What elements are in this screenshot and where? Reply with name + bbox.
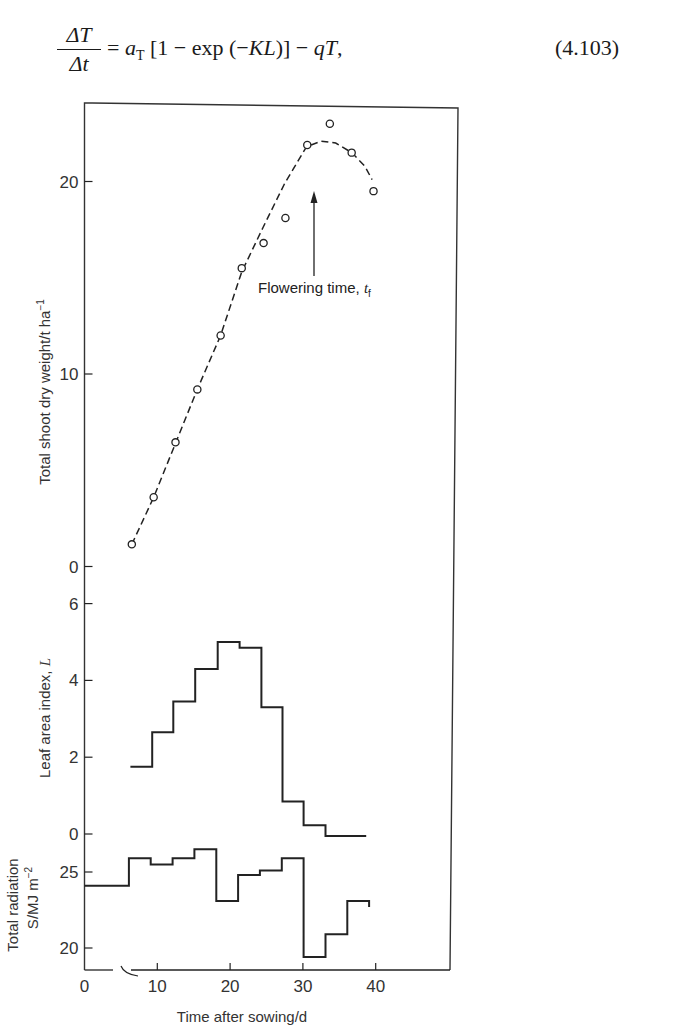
data-point-circle: [326, 120, 333, 127]
rad-y-axis-title-line1: Total radiation: [4, 858, 21, 951]
x-tick-label: 30: [293, 977, 312, 996]
lai-y-tick-label: 2: [69, 748, 78, 767]
lai-y-tick-label: 6: [69, 595, 78, 614]
weight-y-tick-label: 0: [69, 558, 78, 577]
axis-break-icon: [121, 966, 138, 976]
frame-border: [85, 103, 459, 970]
leaf-area-index-panel: 0246: [69, 595, 366, 844]
rad-y-tick-label: 20: [60, 939, 79, 958]
data-point-circle: [304, 141, 311, 148]
data-point-circle: [128, 541, 135, 548]
chart-frame: [85, 103, 459, 970]
data-point-circle: [238, 265, 245, 272]
flowering-time-label: Flowering time, tf: [258, 279, 371, 299]
data-point-circle: [282, 214, 289, 221]
x-tick-label: 20: [221, 977, 240, 996]
data-point-circle: [172, 439, 179, 446]
data-point-circle: [150, 494, 157, 501]
rad-y-axis-title-line2: S/MJ m−2: [23, 866, 41, 929]
x-tick-label: 10: [148, 977, 167, 996]
lai-step-line: [130, 642, 366, 836]
growth-chart: 01020Flowering time, tf 0246 2025 010203…: [0, 0, 681, 1031]
data-point-circle: [348, 149, 355, 156]
shoot-dry-weight-panel: 01020Flowering time, tf: [60, 120, 378, 576]
weight-y-axis-title: Total shoot dry weight/t ha−1: [35, 299, 53, 485]
arrow-up-icon: [311, 191, 318, 203]
total-radiation-panel: 2025: [60, 849, 370, 958]
x-tick-label: 0: [80, 977, 89, 996]
radiation-step-line: [85, 849, 370, 957]
time-axis: 010203040Time after sowing/d: [80, 963, 450, 1025]
x-tick-label: 40: [366, 977, 385, 996]
data-point-circle: [194, 386, 201, 393]
axis-labels: Total shoot dry weight/t ha−1Leaf area i…: [4, 299, 53, 952]
data-point-circle: [260, 240, 267, 247]
lai-y-tick-label: 0: [69, 825, 78, 844]
lai-y-tick-label: 4: [69, 671, 78, 690]
data-point-circle: [217, 332, 224, 339]
weight-y-tick-label: 10: [60, 365, 79, 384]
x-axis-title: Time after sowing/d: [177, 1008, 307, 1025]
rad-y-tick-label: 25: [60, 863, 79, 882]
weight-y-tick-label: 20: [60, 173, 79, 192]
data-point-circle: [370, 188, 377, 195]
lai-y-axis-title: Leaf area index, L: [36, 658, 53, 778]
fitted-curve-dashed: [132, 141, 372, 544]
